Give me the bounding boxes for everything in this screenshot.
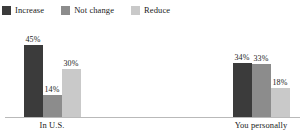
bar-label-in-us-not-change: 14% <box>45 85 60 94</box>
bar-wrap-in-us-reduce: 30% <box>62 22 81 117</box>
bar-group-in-us: 45% 14% 30% <box>22 22 82 117</box>
bar-chart: Increase Not change Reduce 45% 14% 30% <box>0 0 305 138</box>
legend-label-not-change: Not change <box>74 6 114 15</box>
bar-you-reduce <box>271 88 290 117</box>
bar-label-in-us-reduce: 30% <box>64 59 79 68</box>
bar-wrap-you-increase: 34% <box>233 22 252 117</box>
chart-legend: Increase Not change Reduce <box>2 3 187 17</box>
legend-swatch-not-change <box>61 6 70 15</box>
bar-in-us-reduce <box>62 69 81 117</box>
legend-swatch-reduce <box>131 6 140 15</box>
bar-you-increase <box>233 63 252 117</box>
bar-label-in-us-increase: 45% <box>26 35 41 44</box>
bar-you-not-change <box>252 64 271 117</box>
bar-wrap-you-not-change: 33% <box>252 22 271 117</box>
legend-swatch-increase <box>2 6 11 15</box>
legend-label-reduce: Reduce <box>144 6 170 15</box>
bar-in-us-increase <box>24 45 43 117</box>
x-axis-labels: In U.S. You personally <box>0 120 305 136</box>
bar-in-us-not-change <box>43 95 62 117</box>
legend-label-increase: Increase <box>15 6 44 15</box>
bar-label-you-increase: 34% <box>235 53 250 62</box>
plot-area: 45% 14% 30% 34% 33% 18% <box>0 22 305 118</box>
x-axis-label-in-us: In U.S. <box>39 120 64 130</box>
legend-item-reduce: Reduce <box>131 6 170 15</box>
bar-group-you-personally: 34% 33% 18% <box>231 22 291 117</box>
bar-label-you-not-change: 33% <box>254 54 269 63</box>
legend-item-not-change: Not change <box>61 6 114 15</box>
x-axis-line <box>5 117 300 118</box>
bar-wrap-in-us-not-change: 14% <box>43 22 62 117</box>
x-axis-label-you-personally: You personally <box>235 120 288 130</box>
bar-wrap-you-reduce: 18% <box>271 22 290 117</box>
bar-wrap-in-us-increase: 45% <box>24 22 43 117</box>
legend-item-increase: Increase <box>2 6 44 15</box>
bar-label-you-reduce: 18% <box>273 78 288 87</box>
